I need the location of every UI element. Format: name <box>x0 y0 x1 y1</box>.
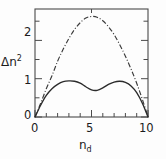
x-axis-label-subscript: d <box>87 145 92 154</box>
x-tick-label-0: 0 <box>31 123 38 135</box>
y-axis-minor-ticks <box>35 21 40 98</box>
y-axis-label-text: Δn <box>1 55 17 69</box>
y-tick-label-2: 2 <box>24 27 31 39</box>
x-axis-label-text: n <box>79 138 87 152</box>
figure-container: Δn2 nd 2 1 0 0 5 10 <box>0 0 166 159</box>
data-curve-upper <box>35 16 148 117</box>
x-axis-major-ticks <box>35 110 148 117</box>
y-tick-label-1: 1 <box>24 75 31 87</box>
x-tick-label-5: 5 <box>86 123 93 135</box>
x-tick-label-10: 10 <box>139 123 154 135</box>
axis-frame <box>35 9 148 117</box>
x-axis-label: nd <box>79 139 92 154</box>
y-axis-label-exponent: 2 <box>17 54 22 63</box>
y-axis-label: Δn2 <box>1 55 22 68</box>
y-tick-label-0: 0 <box>24 110 31 122</box>
